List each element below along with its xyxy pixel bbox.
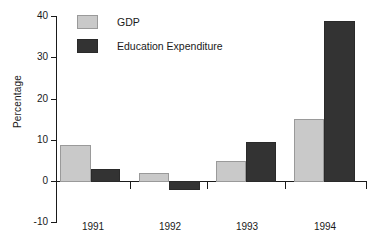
legend-swatch-education-expenditure [77,39,98,53]
y-tick-mark [51,222,57,223]
x-tick-mark [130,182,131,189]
y-tick-label: 20 [14,94,48,104]
y-tick-mark [51,99,57,100]
y-tick-label: 10 [14,135,48,145]
bar-gdp-1992 [139,173,169,182]
y-tick-mark [51,57,57,58]
legend-label-education-expenditure: Education Expenditure [117,38,223,54]
y-tick-label: 40 [14,11,48,21]
bar-gdp-1994 [294,119,324,182]
bar-education-1992 [169,181,200,190]
x-tick-mark [207,182,208,189]
bar-education-1994 [324,21,355,182]
bar-gdp-1993 [216,161,246,182]
bar-education-1993 [246,142,276,182]
x-tick-label-1991: 1991 [63,221,123,232]
y-axis-line [56,16,57,223]
y-tick-mark [51,140,57,141]
bar-education-1991 [91,169,120,182]
x-tick-mark [285,182,286,189]
legend-label-gdp: GDP [117,14,140,30]
bar-chart: Percentage 40 30 20 10 0 -10 1991 1992 1… [0,0,380,248]
x-tick-label-1994: 1994 [295,221,355,232]
y-tick-label: 30 [14,52,48,62]
x-tick-label-1992: 1992 [140,221,200,232]
y-tick-label: 0 [14,176,48,186]
y-tick-label: -10 [14,217,48,227]
bar-gdp-1991 [60,145,91,182]
y-tick-mark [51,16,57,17]
x-tick-mark [366,182,367,189]
x-tick-label-1993: 1993 [217,221,277,232]
legend-swatch-gdp [77,15,98,29]
